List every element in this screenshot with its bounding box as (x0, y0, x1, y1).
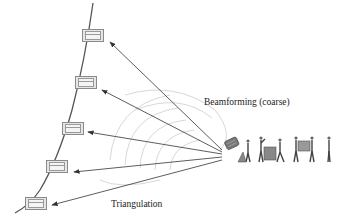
sensor-node-3 (62, 122, 84, 135)
person-icon (310, 136, 314, 162)
box-icon (298, 141, 310, 151)
box-icon (264, 147, 276, 160)
people-icons (238, 136, 331, 162)
diagram-canvas (0, 0, 347, 222)
person-icon (327, 136, 330, 162)
beamforming-label: Beamforming (coarse) (204, 97, 290, 107)
sensor-node-5 (25, 197, 47, 210)
sensor-node-1 (82, 29, 104, 42)
person-icon (277, 138, 284, 162)
sensor-node-2 (75, 76, 97, 89)
sensor-node-4 (46, 160, 68, 173)
person-icon (294, 136, 298, 162)
person-icon (238, 139, 250, 162)
diagram: Beamforming (coarse) Triangulation (0, 0, 347, 222)
triangulation-label: Triangulation (111, 199, 162, 209)
